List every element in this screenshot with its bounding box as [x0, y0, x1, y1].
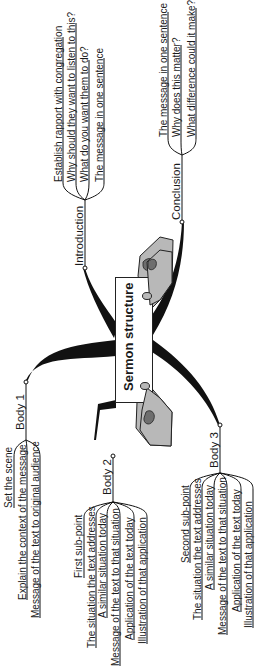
introduction-item[interactable]: What do you want them to do? [79, 46, 90, 182]
body3-item[interactable]: Illustration of that application [243, 501, 254, 628]
body1-item[interactable]: Set the scene [3, 447, 14, 508]
body3-item[interactable]: Application of the text today [231, 489, 242, 612]
body2-item[interactable]: First sub-point [73, 515, 84, 578]
body1-item[interactable]: Message of the text to original audience [30, 441, 41, 618]
body2-item[interactable]: The situation the text addresses [86, 506, 97, 648]
body2-item[interactable]: A similar situation today [97, 513, 108, 618]
branch-label-introduction[interactable]: Introduction [74, 206, 85, 266]
mind-map: Sermon structure Introduction Conclusion… [0, 0, 267, 668]
body2-item[interactable]: Message of the text to that situation [110, 508, 121, 666]
central-topic-label: Sermon structure [121, 283, 136, 391]
branch-label-conclusion[interactable]: Conclusion [171, 163, 182, 220]
branch-to-body2 [94, 400, 116, 440]
conclusion-item[interactable]: Why does this matter? [171, 38, 182, 137]
conclusion-item[interactable]: The message in one sentence [158, 3, 169, 137]
body3-item[interactable]: Message of the text to that situation [217, 477, 228, 635]
branch-to-introduction [83, 268, 118, 338]
branch-label-body3[interactable]: Body 3 [209, 432, 220, 468]
body2-item[interactable]: Illustration of that application [137, 517, 148, 644]
body3-item[interactable]: Second sub-point [180, 485, 191, 563]
branch-label-body1[interactable]: Body 1 [15, 394, 26, 430]
body1-item[interactable]: Explain the context of the message [17, 444, 28, 600]
introduction-item[interactable]: Why should they want to listen to this? [66, 12, 77, 182]
conclusion-item[interactable]: What difference could it make? [186, 0, 197, 137]
body2-item[interactable]: Application of the text today [124, 517, 135, 640]
introduction-item[interactable]: The message in one sentence [94, 48, 105, 182]
introduction-item[interactable]: Establish rapport with congregation [53, 26, 64, 182]
body3-item[interactable]: A similar situation today [204, 485, 215, 590]
branch-to-body1 [26, 340, 116, 380]
body3-item[interactable]: The situation the text addresses [192, 478, 203, 620]
branch-label-body2[interactable]: Body 2 [102, 459, 113, 495]
